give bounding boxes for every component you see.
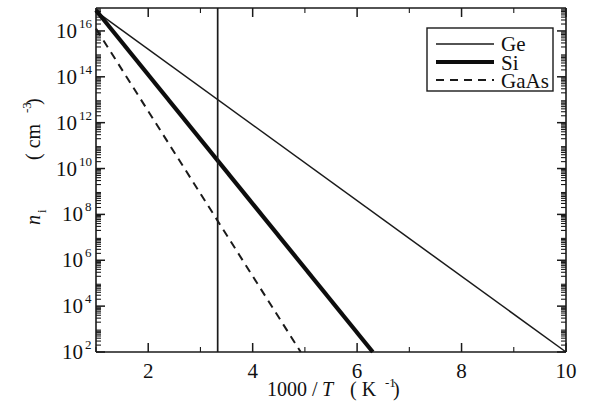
x-tick-label: 10 <box>556 359 577 383</box>
intrinsic-carrier-concentration-chart: 246810 1021041061081010101210141016 1000… <box>0 0 591 411</box>
y-tick-label-exponent: 6 <box>85 245 92 260</box>
x-axis-unit-close: ) <box>393 378 400 401</box>
legend-label-gaas: GaAs <box>501 69 549 93</box>
x-tick-label: 8 <box>456 359 467 383</box>
y-tick-label-mantissa: 10 <box>62 340 83 364</box>
x-axis-unit-open: ( K <box>350 378 377 401</box>
series-line-gaas <box>96 29 301 352</box>
y-axis-title-symbol: n <box>22 215 44 225</box>
y-tick-label-exponent: 10 <box>79 154 92 169</box>
x-tick-label: 4 <box>247 359 258 383</box>
x-axis-title-numerator: 1000 / <box>267 378 318 400</box>
y-tick-label-exponent: 2 <box>85 337 92 352</box>
legend: Ge Si GaAs <box>427 28 553 93</box>
y-axis-unit-open: ( cm <box>22 123 45 160</box>
y-axis-unit-close: ) <box>22 98 45 105</box>
y-tick-label-mantissa: 10 <box>56 111 77 135</box>
y-tick-label-mantissa: 10 <box>62 202 83 226</box>
y-tick-label-mantissa: 10 <box>56 19 77 43</box>
chart-canvas: 246810 1021041061081010101210141016 1000… <box>0 0 591 411</box>
y-tick-label-mantissa: 10 <box>56 157 77 181</box>
y-axis-title-subscript: i <box>34 209 49 213</box>
x-axis-title-variable: T <box>322 378 335 400</box>
y-tick-label-exponent: 12 <box>79 108 92 123</box>
y-tick-label-exponent: 16 <box>79 16 93 31</box>
y-axis-tick-labels: 1021041061081010101210141016 <box>56 16 93 364</box>
x-tick-label: 2 <box>143 359 154 383</box>
y-axis-title: n i ( cm -3 ) <box>19 98 49 225</box>
y-tick-label-exponent: 8 <box>85 199 92 214</box>
x-axis-title: 1000 / T ( K -1 ) <box>267 375 400 401</box>
y-tick-label-mantissa: 10 <box>62 248 83 272</box>
y-tick-label-exponent: 14 <box>79 62 93 77</box>
y-tick-label-exponent: 4 <box>85 291 92 306</box>
y-tick-label-mantissa: 10 <box>62 294 83 318</box>
y-tick-label-mantissa: 10 <box>56 65 77 89</box>
